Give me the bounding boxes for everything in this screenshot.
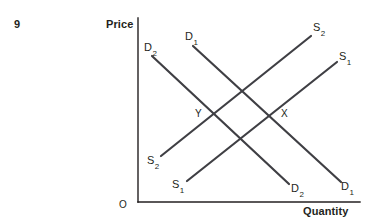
curve-label-s2-bottom-base: S bbox=[147, 154, 154, 166]
question-number: 9 bbox=[14, 19, 20, 30]
demand-curve-d2 bbox=[152, 56, 289, 184]
supply-demand-figure: 9 Price Quantity O D2 D1 S2 S1 S2 S1 D2 … bbox=[0, 0, 370, 220]
curve-label-s1-bottom-base: S bbox=[172, 178, 179, 190]
curve-label-s1-bottom-sub: 1 bbox=[180, 186, 185, 195]
x-axis-title: Quantity bbox=[303, 206, 348, 217]
curve-label-s2-top-base: S bbox=[313, 21, 320, 33]
equilibrium-point-label-y: Y bbox=[195, 109, 202, 119]
curve-label-s2-bottom-sub: 2 bbox=[155, 162, 160, 171]
curve-label-d1-bottom-base: D bbox=[341, 180, 349, 192]
curve-label-s1-bottom: S1 bbox=[172, 179, 184, 190]
curve-label-d2-bottom-base: D bbox=[291, 182, 299, 194]
equilibrium-point-label-x: X bbox=[281, 109, 288, 119]
supply-curve-s2 bbox=[161, 36, 311, 156]
curve-label-s1-top: S1 bbox=[339, 51, 351, 62]
curve-label-s2-top: S2 bbox=[313, 22, 325, 33]
curve-label-d1-bottom-sub: 1 bbox=[349, 188, 354, 197]
curve-label-d2-bottom: D2 bbox=[291, 183, 304, 194]
curve-label-d2-bottom-sub: 2 bbox=[299, 190, 304, 199]
curve-label-s2-bottom: S2 bbox=[147, 155, 159, 166]
curve-label-s2-top-sub: 2 bbox=[321, 29, 326, 38]
curve-label-d2-top-base: D bbox=[144, 41, 152, 53]
curve-label-d1-bottom: D1 bbox=[341, 181, 354, 192]
curve-label-s1-top-base: S bbox=[339, 50, 346, 62]
curve-label-d2-top-sub: 2 bbox=[152, 49, 157, 58]
curve-label-d1-top-sub: 1 bbox=[193, 38, 198, 47]
origin-label: O bbox=[119, 200, 127, 210]
y-axis-title: Price bbox=[106, 19, 133, 30]
supply-curve-s1 bbox=[187, 62, 337, 181]
curve-label-s1-top-sub: 1 bbox=[347, 58, 352, 67]
curve-label-d2-top: D2 bbox=[144, 42, 157, 53]
curve-label-d1-top: D1 bbox=[185, 31, 198, 42]
curve-label-d1-top-base: D bbox=[185, 30, 193, 42]
